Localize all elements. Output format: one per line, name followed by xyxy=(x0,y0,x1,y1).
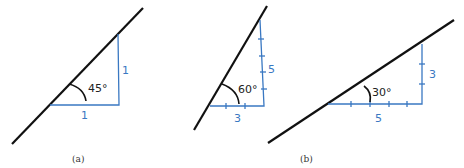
vertical-length-label-b-left: 5 xyxy=(268,63,275,76)
caption-a: (a) xyxy=(72,154,84,164)
slope-line-30 xyxy=(268,20,454,143)
figure-b-left: 60° 3 5 xyxy=(194,6,275,130)
angle-label-60: 60° xyxy=(238,83,258,96)
horizontal-length-label-a: 1 xyxy=(81,109,88,122)
slope-angle-diagram: 45° 1 1 (a) 60° 3 5 xyxy=(0,0,464,168)
vertical-length-label-a: 1 xyxy=(122,64,129,77)
angle-label-45: 45° xyxy=(88,82,108,95)
horizontal-length-label-b-left: 3 xyxy=(234,112,241,125)
figure-b-right: 30° 5 3 (b) xyxy=(268,20,454,164)
angle-arc-45 xyxy=(69,84,86,101)
angle-arc-60 xyxy=(222,84,239,104)
figure-a: 45° 1 1 (a) xyxy=(12,8,143,164)
caption-b: (b) xyxy=(300,154,313,164)
vertical-length-label-b-right: 3 xyxy=(429,68,436,81)
angle-label-30: 30° xyxy=(372,86,392,99)
diagram-canvas: 45° 1 1 (a) 60° 3 5 xyxy=(0,0,464,168)
angle-arc-30 xyxy=(364,86,370,102)
slope-line-60 xyxy=(194,6,267,130)
horizontal-length-label-b-right: 5 xyxy=(375,112,382,125)
